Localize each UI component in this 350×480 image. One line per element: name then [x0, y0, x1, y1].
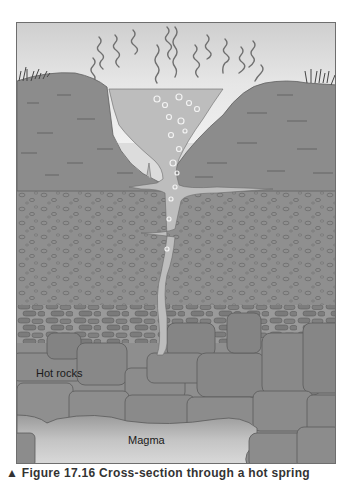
hot-rocks-label: Hot rocks [36, 367, 82, 379]
figure-caption: ▲ Figure 17.16 Cross-section through a h… [6, 466, 310, 480]
magma-label: Magma [128, 434, 165, 446]
geyser-diagram: Hot rocks Magma [16, 22, 336, 464]
diagram-illustration [17, 23, 336, 464]
